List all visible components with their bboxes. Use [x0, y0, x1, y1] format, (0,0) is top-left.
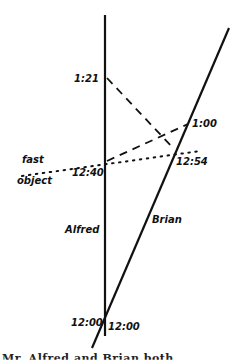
signal-12-54-to-1-21	[107, 78, 174, 149]
label-12-54: 12:54	[176, 157, 208, 167]
brian-worldline	[92, 28, 229, 348]
label-object: object	[17, 176, 52, 186]
label-12-40: 12:40	[72, 168, 104, 178]
label-1-21: 1:21	[74, 74, 99, 84]
label-1-00: 1:00	[192, 119, 217, 129]
fast-object-worldline	[22, 151, 200, 176]
label-alfred-12-00: 12:00	[71, 318, 103, 328]
label-fast: fast	[22, 155, 44, 165]
label-brian: Brian	[152, 215, 182, 225]
label-alfred: Alfred	[65, 225, 99, 235]
label-brian-12-00: 12:00	[108, 322, 140, 332]
